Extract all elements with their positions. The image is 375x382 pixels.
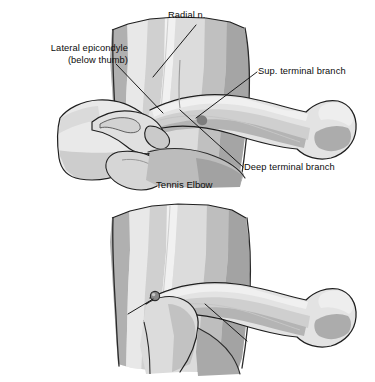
illustration-page: Lateral epicondyle (below thumb) Radial …: [0, 0, 375, 382]
radial-nerve-syndrome-anatomy-drawing: [0, 196, 375, 382]
figure-tennis-elbow: Lateral epicondyle (below thumb) Radial …: [0, 0, 375, 200]
lateral-epicondyle-dot-highlight: [152, 293, 155, 296]
figure-radial-nerve-syndrome: Lateral epicondyle Post. interosseous n.…: [0, 196, 375, 382]
caption-tennis-elbow: Tennis Elbow: [156, 179, 213, 190]
label-lateral-epicondyle-below-thumb: Lateral epicondyle (below thumb): [14, 43, 128, 66]
label-deep-terminal-branch: Deep terminal branch: [244, 162, 335, 174]
label-sup-terminal-branch: Sup. terminal branch: [258, 66, 346, 78]
label-radial-n: Radial n.: [168, 10, 206, 22]
label-line-1: Lateral epicondyle: [51, 43, 128, 53]
label-line-2: (below thumb): [14, 55, 128, 67]
